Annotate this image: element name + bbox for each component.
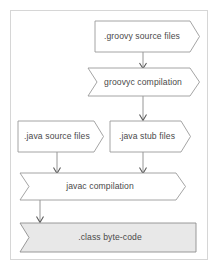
edge-stub-to-javac — [140, 152, 147, 174]
node-label-groovyc-compilation: groovyc compilation — [104, 77, 182, 87]
edge-javasource-to-javac — [54, 152, 61, 174]
node-label-java-stub-files: .java stub files — [119, 131, 175, 141]
node-class-byte-code[interactable]: .class byte-code — [20, 223, 196, 252]
node-label-javac-compilation: javac compilation — [65, 181, 134, 191]
node-java-source-files[interactable]: .java source files — [18, 121, 104, 152]
node-groovy-source-files[interactable]: .groovy source files — [95, 21, 200, 52]
node-label-java-source-files: .java source files — [24, 131, 90, 141]
node-javac-compilation[interactable]: javac compilation — [20, 173, 186, 200]
edge-javac-to-class — [37, 200, 44, 223]
diagram-canvas: .groovy source files groovyc compilation… — [0, 0, 219, 271]
flowchart-diagram: .groovy source files groovyc compilation… — [0, 0, 219, 271]
node-label-groovy-source-files: .groovy source files — [104, 31, 180, 41]
edge-groovyc-to-stub — [140, 96, 147, 121]
node-groovyc-compilation[interactable]: groovyc compilation — [88, 68, 200, 96]
edge-groovy-to-groovyc — [140, 52, 147, 69]
node-java-stub-files[interactable]: .java stub files — [110, 121, 191, 152]
node-label-class-byte-code: .class byte-code — [78, 232, 142, 242]
